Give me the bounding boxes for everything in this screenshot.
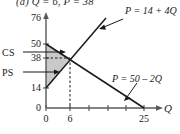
x-label-0: 0 xyxy=(44,113,49,124)
y-axis-arrowhead xyxy=(43,12,49,19)
supply-demand-figure: (a) Q = 6, P = 38 xyxy=(0,0,180,134)
x-axis-title: Q xyxy=(164,102,172,114)
cs-label: CS xyxy=(2,47,15,58)
x-label-6: 6 xyxy=(68,113,73,124)
y-label-14: 14 xyxy=(31,82,41,93)
supply-equation-label: P = 14 + 4Q xyxy=(124,5,177,16)
demand-label-leader-line xyxy=(127,83,137,97)
chart-canvas: 76 50 38 14 0 0 6 25 Q CS PS P = 14 + 4Q… xyxy=(0,0,180,134)
ps-label: PS xyxy=(2,67,14,78)
demand-equation-label: P = 50 – 2Q xyxy=(111,73,163,84)
cs-leader-arrowhead xyxy=(60,50,66,55)
x-axis-arrowhead xyxy=(156,105,163,111)
y-label-76: 76 xyxy=(31,12,41,23)
y-label-38: 38 xyxy=(31,52,41,63)
supply-label-leader-line xyxy=(104,19,123,27)
y-label-50: 50 xyxy=(31,38,41,49)
y-label-0: 0 xyxy=(36,102,41,113)
x-label-25: 25 xyxy=(139,113,149,124)
